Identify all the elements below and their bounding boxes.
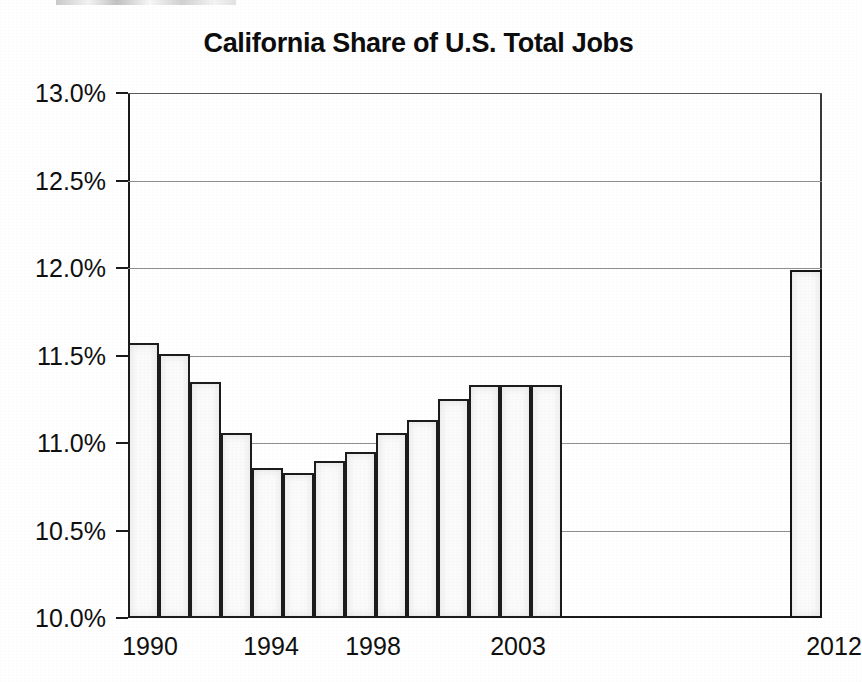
y-axis-tick-mark xyxy=(116,267,128,269)
bar-1993 xyxy=(221,433,252,619)
gridline xyxy=(128,356,822,357)
bar-1999 xyxy=(407,420,438,618)
bar-1990 xyxy=(128,343,159,618)
x-axis-tick-label: 1998 xyxy=(345,632,401,661)
plot-area xyxy=(128,93,822,618)
y-axis-tick-mark xyxy=(116,92,128,94)
y-axis-tick-label: 13.0% xyxy=(35,79,106,108)
x-axis-tick-label: 1994 xyxy=(243,632,299,661)
bar-1992 xyxy=(190,382,221,618)
scan-artifact-sliver xyxy=(56,0,236,5)
x-axis-tick-label: 2012 xyxy=(806,632,862,661)
bar-2000 xyxy=(438,399,469,618)
y-axis-tick-mark xyxy=(116,617,128,619)
x-axis-tick-label: 2003 xyxy=(490,632,546,661)
chart-title: California Share of U.S. Total Jobs xyxy=(0,28,861,59)
gridline xyxy=(128,268,822,269)
gridline xyxy=(128,93,822,94)
y-axis-tick-label: 10.0% xyxy=(35,604,106,633)
y-axis-tick-label: 11.5% xyxy=(37,341,106,370)
y-axis-tick-mark xyxy=(116,355,128,357)
bar-1996 xyxy=(314,461,345,619)
y-axis-tick-label: 10.5% xyxy=(35,516,106,545)
bar-1991 xyxy=(159,354,190,618)
y-axis-tick-label: 12.5% xyxy=(35,166,106,195)
bar-1998 xyxy=(376,433,407,619)
bar-2003 xyxy=(531,385,562,618)
bar-1994 xyxy=(252,468,283,619)
y-axis-tick-label: 12.0% xyxy=(35,254,106,283)
bar-1995 xyxy=(283,473,314,618)
bar-2001 xyxy=(469,385,500,618)
bar-2002 xyxy=(500,385,531,618)
y-axis-tick-mark xyxy=(116,180,128,182)
y-axis-tick-mark xyxy=(116,442,128,444)
y-axis-tick-mark xyxy=(116,530,128,532)
y-axis-tick-label: 11.0% xyxy=(37,429,106,458)
gridline xyxy=(128,181,822,182)
x-axis-tick-label: 1990 xyxy=(122,632,178,661)
bar-2012 xyxy=(790,270,822,618)
bar-1997 xyxy=(345,452,376,618)
chart-title-text: California Share of U.S. Total Jobs xyxy=(203,28,633,58)
